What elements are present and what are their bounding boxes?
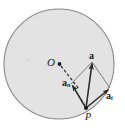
diagram-canvas bbox=[0, 0, 125, 130]
point-P-dot bbox=[84, 106, 88, 110]
label-point-O: O bbox=[47, 57, 55, 68]
point-O-dot bbox=[58, 62, 62, 66]
label-vector-a-t: at bbox=[106, 91, 113, 102]
label-vector-a-n-subscript: n bbox=[67, 81, 70, 88]
label-vector-a-n: an bbox=[62, 78, 70, 89]
label-vector-a: a bbox=[89, 51, 94, 61]
acceleration-diagram-figure: O P a an at bbox=[0, 0, 125, 130]
label-vector-a-t-subscript: t bbox=[111, 94, 113, 101]
disk-speckle bbox=[27, 59, 28, 60]
label-point-P: P bbox=[85, 112, 91, 122]
